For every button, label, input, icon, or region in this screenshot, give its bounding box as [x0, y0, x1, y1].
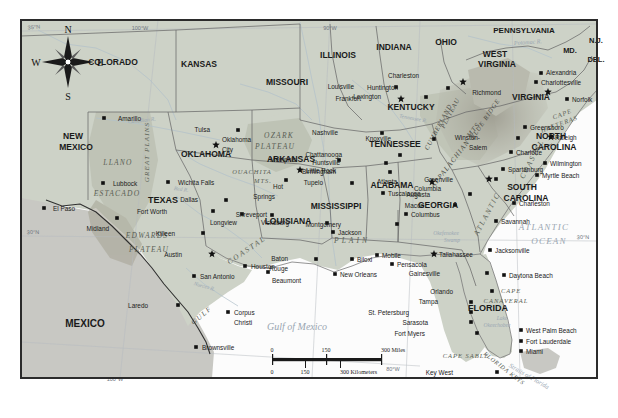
state-label-22: VIRGINIA: [512, 92, 550, 102]
city-dot-icon: [381, 191, 385, 195]
city-dot-icon: [270, 213, 274, 217]
city-dot-icon: [501, 167, 505, 171]
city-label-24: Memphis: [270, 156, 296, 164]
city-marker-19: City: [222, 146, 234, 154]
city-label-70: Orlando: [430, 288, 453, 295]
city-dot-icon: [469, 300, 473, 304]
city-dot-icon: [166, 180, 170, 184]
city-marker-22: Springs: [253, 193, 275, 201]
state-label-10: NEW: [63, 131, 84, 141]
city-dot-icon: [519, 339, 523, 343]
water-label-7: Okefenokee: [433, 230, 459, 236]
state-label-20: WEST: [483, 49, 508, 59]
state-label-2: MISSOURI: [266, 77, 308, 87]
map-canvas: COLORADOKANSASMISSOURIILLINOISINDIANAOHI…: [0, 0, 618, 418]
city-label-10: San Antonio: [200, 273, 235, 280]
scale-km-label: 300 Kilometers: [340, 369, 378, 375]
city-label-4: Midland: [87, 225, 110, 232]
city-label-65: Charleston: [519, 200, 550, 207]
graticule-label-1: 30°N: [27, 229, 40, 235]
city-label-30: New Orleans: [340, 271, 377, 278]
physical-label-1: LLANO: [102, 158, 132, 167]
city-label-61: Atlanta: [377, 178, 397, 185]
city-label-22: Springs: [253, 193, 275, 201]
city-label-57: Greenville: [424, 176, 453, 183]
water-label-2: OCEAN: [531, 236, 567, 246]
city-dot-icon: [102, 116, 106, 120]
city-label-59: Augusta: [407, 191, 431, 199]
city-dot-icon: [424, 95, 428, 99]
city-label-28: Baton: [271, 255, 288, 262]
city-label-3: El Paso: [53, 205, 75, 212]
city-dot-icon: [284, 178, 288, 182]
city-dot-icon: [398, 153, 402, 157]
city-label-29: Rouge: [269, 265, 288, 273]
city-label-75: West Palm Beach: [526, 327, 577, 334]
city-dot-icon: [388, 170, 392, 174]
city-label-76: Fort Lauderdale: [526, 338, 572, 345]
city-label-49: Richmond: [472, 89, 501, 96]
city-label-64: Myrtle Beach: [542, 172, 580, 180]
city-dot-icon: [101, 181, 105, 185]
city-marker-53: Salem: [469, 144, 487, 151]
city-dot-icon: [194, 345, 198, 349]
city-label-51: Greensboro: [530, 124, 564, 131]
city-dot-icon: [523, 125, 527, 129]
physical-label-2: ESTACADO: [93, 189, 141, 198]
city-dot-icon: [543, 161, 547, 165]
city-dot-icon: [519, 328, 523, 332]
city-label-66: Jacksonville: [495, 247, 530, 254]
city-label-40: Knoxville: [365, 135, 391, 142]
city-marker-56: Spartanburg: [501, 166, 543, 174]
water-label-4: Lake: [496, 315, 508, 321]
city-label-11: Laredo: [128, 302, 148, 309]
city-dot-icon: [395, 222, 399, 226]
city-label-69: Daytona Beach: [509, 272, 553, 280]
water-label-0: Gulf of Mexico: [267, 321, 327, 332]
compass-east-label: E: [97, 57, 103, 68]
city-label-63: Wilmington: [550, 160, 582, 168]
city-label-19: City: [222, 146, 234, 154]
city-label-16: Beaumont: [272, 277, 301, 284]
compass-west-label: W: [31, 57, 41, 68]
city-label-21: Hot: [273, 183, 283, 190]
city-dot-icon: [176, 303, 180, 307]
city-dot-icon: [192, 274, 196, 278]
city-dot-icon: [485, 271, 489, 275]
city-label-60: Macon: [405, 202, 425, 209]
city-label-71: Tampa: [419, 298, 439, 306]
city-label-68: Gainesville: [409, 270, 441, 277]
city-label-39: Nashville: [312, 129, 338, 136]
city-dot-icon: [375, 253, 379, 257]
state-label-6: PENNSYLVANIA: [493, 26, 555, 35]
city-label-0: Amarillo: [118, 115, 142, 122]
city-label-17: Tulsa: [195, 126, 211, 133]
city-dot-icon: [469, 320, 473, 324]
city-dot-icon: [502, 273, 506, 277]
city-label-13: Christi: [234, 319, 252, 326]
city-label-62: Savannah: [501, 218, 530, 225]
state-label-8: MD.: [563, 46, 577, 55]
city-dot-icon: [516, 136, 520, 140]
city-label-34: Birmingham: [302, 168, 336, 176]
city-label-41: Chattanooga: [305, 151, 342, 159]
city-dot-icon: [211, 209, 215, 213]
city-label-47: Alexandria: [546, 69, 577, 76]
city-dot-icon: [539, 71, 543, 75]
state-label-28: FLORIDA: [468, 303, 508, 313]
graticule-label-0: 35°N: [28, 24, 41, 31]
state-label-29: MEXICO: [65, 318, 105, 329]
water-label-5: Okeechobee: [484, 322, 511, 328]
city-label-9: Austin: [164, 251, 182, 258]
city-label-54: Raleigh: [555, 134, 577, 142]
city-label-7: Longview: [210, 219, 237, 227]
city-marker-64: Myrtle Beach: [535, 172, 580, 180]
city-dot-icon: [115, 216, 119, 220]
city-dot-icon: [509, 150, 513, 154]
city-label-36: Montgomery: [305, 221, 341, 229]
city-marker-13: Christi: [234, 319, 252, 326]
city-label-37: Columbus: [411, 211, 440, 218]
city-dot-icon: [519, 349, 523, 353]
city-marker-51: Greensboro: [523, 124, 564, 131]
state-label-5: OHIO: [435, 37, 457, 47]
